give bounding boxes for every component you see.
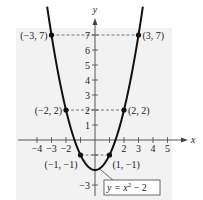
data-point	[63, 107, 68, 112]
x-tick-label: 3	[136, 143, 141, 154]
data-point	[49, 32, 54, 37]
y-tick-label: 3	[85, 90, 90, 101]
x-tick-label: 4	[151, 143, 156, 154]
point-label: (2, 2)	[128, 105, 150, 117]
y-tick-label: 5	[85, 60, 90, 71]
data-point	[121, 107, 126, 112]
y-tick-label: 1	[85, 120, 90, 131]
data-point	[78, 152, 83, 157]
x-tick-label: 5	[165, 143, 170, 154]
x-tick-label: −2	[61, 143, 72, 154]
y-axis-label: y	[92, 4, 98, 15]
y-tick-label: −3	[79, 180, 90, 191]
x-tick-label: −4	[32, 143, 43, 154]
data-point	[136, 32, 141, 37]
point-label: (1, −1)	[113, 159, 140, 171]
y-tick-label: 6	[85, 45, 90, 56]
plot-area: xy−4−3−22345−31234567(−3, 7)(3, 7)(−2, 2…	[0, 0, 203, 200]
point-label: (−1, −1)	[45, 159, 78, 171]
parabola-chart: xy−4−3−22345−31234567(−3, 7)(3, 7)(−2, 2…	[0, 0, 203, 200]
x-tick-label: 2	[122, 143, 127, 154]
y-tick-label: 7	[85, 30, 90, 41]
y-tick-label: 2	[85, 105, 90, 116]
data-point	[107, 152, 112, 157]
y-axis-arrow-icon	[93, 18, 98, 25]
point-label: (−2, 2)	[35, 105, 62, 117]
point-label: (−3, 7)	[20, 30, 47, 42]
x-tick-label: −3	[46, 143, 57, 154]
x-axis-label: x	[190, 134, 196, 145]
x-axis-arrow-icon	[181, 138, 188, 143]
equation-label: y = x2 − 2	[106, 181, 147, 193]
point-label: (3, 7)	[143, 30, 165, 42]
y-tick-label: 4	[85, 75, 90, 86]
